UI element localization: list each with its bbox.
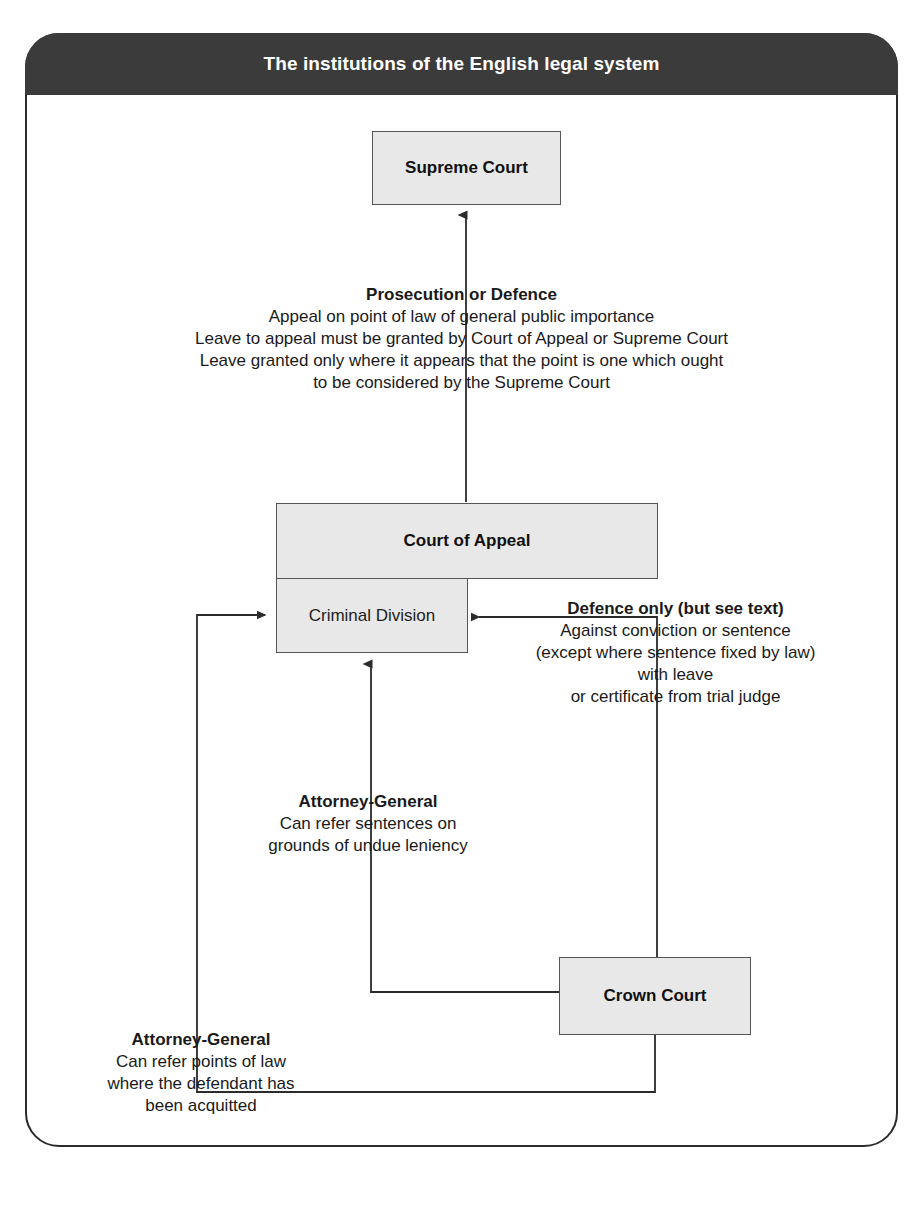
annotation-attorney-general-points-of-law: Attorney-General Can refer points of law… — [36, 1029, 366, 1117]
annotation-line: Can refer sentences on — [218, 813, 518, 835]
annotation-line: (except where sentence fixed by law) — [478, 642, 873, 664]
annotation-line: Leave to appeal must be granted by Court… — [0, 328, 923, 350]
annotation-heading: Prosecution or Defence — [0, 284, 923, 306]
node-criminal-division[interactable]: Criminal Division — [276, 578, 468, 653]
annotation-line: Can refer points of law — [36, 1051, 366, 1073]
diagram-page: The institutions of the English legal sy… — [0, 0, 923, 1213]
annotation-line: Appeal on point of law of general public… — [0, 306, 923, 328]
annotation-line: to be considered by the Supreme Court — [0, 372, 923, 394]
annotation-prosecution-or-defence: Prosecution or Defence Appeal on point o… — [0, 284, 923, 394]
annotation-line: Leave granted only where it appears that… — [0, 350, 923, 372]
title-bar: The institutions of the English legal sy… — [25, 33, 898, 95]
title-banner: The institutions of the English legal sy… — [25, 33, 898, 95]
node-crown-court-label: Crown Court — [604, 986, 707, 1006]
annotation-line: been acquitted — [36, 1095, 366, 1117]
annotation-line: with leave — [478, 664, 873, 686]
annotation-line: grounds of undue leniency — [218, 835, 518, 857]
node-criminal-division-label: Criminal Division — [309, 606, 436, 626]
annotation-line: where the defendant has — [36, 1073, 366, 1095]
annotation-attorney-general-sentences: Attorney-General Can refer sentences on … — [218, 791, 518, 857]
annotation-line: Against conviction or sentence — [478, 620, 873, 642]
node-supreme-court[interactable]: Supreme Court — [372, 131, 561, 205]
annotation-heading: Defence only (but see text) — [478, 598, 873, 620]
annotation-heading: Attorney-General — [218, 791, 518, 813]
node-court-of-appeal[interactable]: Court of Appeal — [276, 503, 658, 579]
node-court-of-appeal-label: Court of Appeal — [404, 531, 531, 551]
page-title: The institutions of the English legal sy… — [263, 53, 659, 75]
node-supreme-court-label: Supreme Court — [405, 158, 528, 178]
annotation-defence-only: Defence only (but see text) Against conv… — [478, 598, 873, 708]
node-crown-court[interactable]: Crown Court — [559, 957, 751, 1035]
annotation-line: or certificate from trial judge — [478, 686, 873, 708]
annotation-heading: Attorney-General — [36, 1029, 366, 1051]
